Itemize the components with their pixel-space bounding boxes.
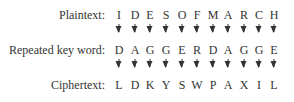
down-arrow-icon (119, 24, 120, 32)
key-word-letter: G (252, 43, 266, 58)
down-arrow-icon (197, 59, 198, 67)
down-arrow-icon (259, 59, 260, 67)
down-arrow-icon (213, 59, 214, 67)
plaintext-letter: C (252, 8, 266, 23)
key-word-label: Repeated key word: (9, 43, 105, 58)
ciphertext-letter: Y (159, 78, 173, 93)
plaintext-letter: E (143, 8, 157, 23)
plaintext-letter: I (112, 8, 126, 23)
key-word-letter: R (190, 43, 204, 58)
down-arrow-icon (213, 24, 214, 32)
plaintext-letter: R (237, 8, 251, 23)
ciphertext-letter: P (206, 78, 220, 93)
key-word-letter: E (267, 43, 281, 58)
ciphertext-letter: A (221, 78, 235, 93)
ciphertext-letter: S (175, 78, 189, 93)
plaintext-letter: H (267, 8, 281, 23)
ciphertext-letter: K (143, 78, 157, 93)
plaintext-letter: M (206, 8, 220, 23)
plaintext-letter: S (159, 8, 173, 23)
key-word-letter: G (143, 43, 157, 58)
down-arrow-icon (182, 59, 183, 67)
key-word-letter: D (112, 43, 126, 58)
down-arrow-icon (197, 24, 198, 32)
key-word-letter: E (175, 43, 189, 58)
ciphertext-label: Ciphertext: (51, 78, 105, 93)
key-word-letter: G (237, 43, 251, 58)
down-arrow-icon (228, 24, 229, 32)
plaintext-letter: F (190, 8, 204, 23)
down-arrow-icon (119, 59, 120, 67)
key-word-letter: D (206, 43, 220, 58)
down-arrow-icon (182, 24, 183, 32)
key-word-letter: A (128, 43, 142, 58)
down-arrow-icon (135, 59, 136, 67)
down-arrow-icon (150, 59, 151, 67)
down-arrow-icon (135, 24, 136, 32)
ciphertext-letter: W (190, 78, 204, 93)
down-arrow-icon (274, 59, 275, 67)
down-arrow-icon (166, 59, 167, 67)
down-arrow-icon (259, 24, 260, 32)
down-arrow-icon (244, 59, 245, 67)
plaintext-letter: A (221, 8, 235, 23)
ciphertext-letter: I (252, 78, 266, 93)
ciphertext-letter: D (128, 78, 142, 93)
down-arrow-icon (244, 24, 245, 32)
ciphertext-letter: L (112, 78, 126, 93)
ciphertext-letter: X (237, 78, 251, 93)
down-arrow-icon (274, 24, 275, 32)
plaintext-label: Plaintext: (59, 8, 105, 23)
key-word-letter: A (221, 43, 235, 58)
key-word-letter: G (159, 43, 173, 58)
plaintext-letter: D (128, 8, 142, 23)
ciphertext-letter: L (267, 78, 281, 93)
plaintext-letter: O (175, 8, 189, 23)
down-arrow-icon (166, 24, 167, 32)
down-arrow-icon (150, 24, 151, 32)
down-arrow-icon (228, 59, 229, 67)
